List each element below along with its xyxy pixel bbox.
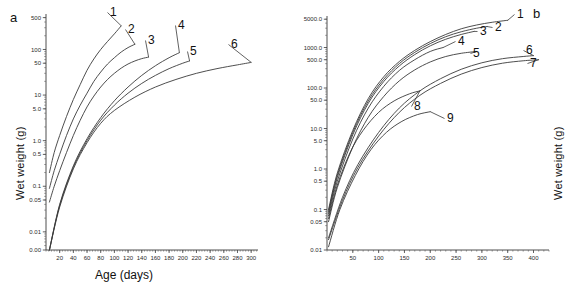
curve-label-3: 3 — [480, 24, 487, 38]
curve-label-5: 5 — [473, 46, 480, 60]
panel-a: a Wet weight (g) Age (days) 50010050105.… — [0, 0, 283, 291]
curve-6 — [49, 62, 251, 250]
svg-text:200: 200 — [425, 255, 436, 261]
curve-label-7: 7 — [530, 56, 537, 70]
svg-text:0.01: 0.01 — [29, 229, 41, 235]
curve-6 — [329, 56, 534, 238]
curve-2 — [329, 27, 488, 212]
curve-label-2: 2 — [128, 22, 135, 36]
curve-label-1: 1 — [517, 7, 524, 21]
svg-text:160: 160 — [150, 255, 161, 261]
svg-text:10: 10 — [34, 92, 41, 98]
panel-b: b Wet weight (g) Age (days) 5000.01000.0… — [283, 0, 566, 291]
svg-text:250: 250 — [451, 255, 462, 261]
curve-label-6: 6 — [526, 43, 533, 57]
svg-text:100.0: 100.0 — [307, 85, 323, 91]
svg-text:100: 100 — [374, 255, 385, 261]
svg-text:20: 20 — [56, 255, 63, 261]
svg-text:220: 220 — [191, 255, 202, 261]
curve-label-9: 9 — [447, 111, 454, 125]
svg-text:140: 140 — [137, 255, 148, 261]
panel-a-letter: a — [10, 10, 17, 25]
svg-text:0.00: 0.00 — [29, 247, 41, 253]
panel-b-y-axis-title: Wet weight (g) — [552, 126, 564, 200]
svg-text:200: 200 — [178, 255, 189, 261]
panel-a-plot: 50010050105.01.00.50.10.050.010.00204060… — [0, 0, 283, 291]
svg-text:350: 350 — [503, 255, 514, 261]
svg-text:0.1: 0.1 — [314, 207, 323, 213]
svg-text:5.0: 5.0 — [33, 106, 42, 112]
panel-b-plot: 5000.01000.0500.0100.050.010.05.01.00.50… — [283, 0, 566, 291]
svg-text:1.0: 1.0 — [314, 166, 323, 172]
svg-text:500: 500 — [31, 15, 42, 21]
curve-label-4: 4 — [458, 34, 465, 48]
svg-text:300: 300 — [246, 255, 257, 261]
svg-text:0.1: 0.1 — [33, 183, 42, 189]
svg-text:180: 180 — [164, 255, 175, 261]
svg-text:60: 60 — [84, 255, 91, 261]
svg-text:300: 300 — [477, 255, 488, 261]
svg-text:0.01: 0.01 — [310, 247, 322, 253]
curve-2 — [49, 44, 134, 188]
curve-3 — [49, 57, 148, 202]
svg-text:0.5: 0.5 — [33, 151, 42, 157]
svg-text:400: 400 — [529, 255, 540, 261]
svg-text:80: 80 — [97, 255, 104, 261]
svg-text:260: 260 — [219, 255, 230, 261]
svg-text:0.05: 0.05 — [310, 219, 322, 225]
curve-7 — [329, 60, 539, 240]
curve-label-2: 2 — [495, 20, 502, 34]
curve-4 — [49, 53, 179, 250]
growth-curves-figure: a Wet weight (g) Age (days) 50010050105.… — [0, 0, 566, 291]
svg-text:0.05: 0.05 — [29, 197, 41, 203]
curve-8 — [329, 91, 420, 219]
svg-text:100: 100 — [109, 255, 120, 261]
curve-label-8: 8 — [414, 99, 421, 113]
svg-text:40: 40 — [70, 255, 77, 261]
curve-5 — [49, 61, 189, 250]
panel-a-x-axis-title: Age (days) — [95, 268, 153, 282]
svg-text:1000.0: 1000.0 — [304, 45, 323, 51]
svg-text:100: 100 — [31, 47, 42, 53]
svg-text:0.5: 0.5 — [314, 178, 323, 184]
svg-text:50: 50 — [349, 255, 356, 261]
curve-1 — [49, 26, 121, 173]
svg-text:50.0: 50.0 — [310, 97, 322, 103]
svg-text:150: 150 — [399, 255, 410, 261]
svg-text:5000.0: 5000.0 — [304, 16, 323, 22]
svg-text:1.0: 1.0 — [33, 138, 42, 144]
panel-b-letter: b — [533, 6, 540, 21]
svg-text:240: 240 — [205, 255, 216, 261]
curve-label-5: 5 — [190, 44, 197, 58]
panel-a-y-axis-title: Wet weight (g) — [14, 126, 26, 200]
curve-label-4: 4 — [178, 18, 185, 32]
curve-label-3: 3 — [148, 33, 155, 47]
svg-text:50: 50 — [34, 60, 41, 66]
svg-text:500.0: 500.0 — [307, 57, 323, 63]
svg-text:10.0: 10.0 — [310, 126, 322, 132]
svg-text:120: 120 — [123, 255, 134, 261]
curve-1 — [329, 20, 508, 209]
svg-text:5.0: 5.0 — [314, 138, 323, 144]
curve-label-1: 1 — [110, 5, 117, 19]
svg-text:280: 280 — [232, 255, 243, 261]
curve-label-6: 6 — [231, 37, 238, 51]
